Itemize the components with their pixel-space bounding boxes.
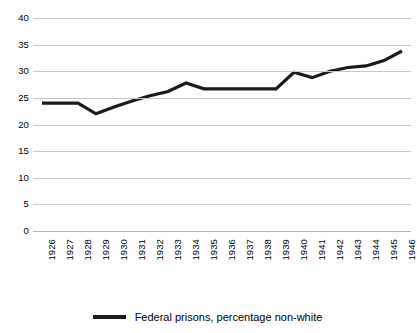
gridline bbox=[33, 151, 411, 152]
x-axis: 1926192719281929193019311932193319341935… bbox=[33, 231, 411, 293]
x-tick-label: 1930 bbox=[119, 239, 129, 283]
gridline bbox=[33, 178, 411, 179]
x-tick-label: 1927 bbox=[65, 239, 75, 283]
legend-label: Federal prisons, percentage non-white bbox=[135, 311, 323, 324]
plot-area bbox=[33, 18, 411, 231]
gridline bbox=[33, 18, 411, 19]
x-tick-label: 1944 bbox=[371, 239, 381, 283]
y-tick-label: 30 bbox=[0, 66, 29, 76]
y-tick-label: 25 bbox=[0, 93, 29, 103]
y-axis: 0510152025303540 bbox=[0, 18, 29, 231]
x-tick-label: 1929 bbox=[101, 239, 111, 283]
gridline bbox=[33, 98, 411, 99]
chart-legend: Federal prisons, percentage non-white bbox=[0, 306, 415, 328]
x-tick-label: 1926 bbox=[47, 239, 57, 283]
x-tick-label: 1932 bbox=[155, 239, 165, 283]
y-tick-label: 40 bbox=[0, 13, 29, 23]
gridline bbox=[33, 45, 411, 46]
x-tick-label: 1931 bbox=[137, 239, 147, 283]
x-tick-label: 1945 bbox=[389, 239, 399, 283]
gridline bbox=[33, 204, 411, 205]
y-tick-label: 10 bbox=[0, 173, 29, 183]
x-tick-label: 1935 bbox=[209, 239, 219, 283]
gridline bbox=[33, 125, 411, 126]
x-tick-label: 1928 bbox=[83, 239, 93, 283]
legend-swatch-icon bbox=[93, 315, 126, 319]
y-tick-label: 35 bbox=[0, 40, 29, 50]
x-tick-label: 1946 bbox=[407, 239, 417, 283]
y-tick-label: 20 bbox=[0, 120, 29, 130]
y-tick-label: 15 bbox=[0, 146, 29, 156]
x-tick-label: 1938 bbox=[263, 239, 273, 283]
x-tick-label: 1940 bbox=[299, 239, 309, 283]
x-tick-label: 1942 bbox=[335, 239, 345, 283]
x-tick-label: 1933 bbox=[173, 239, 183, 283]
x-tick-label: 1939 bbox=[281, 239, 291, 283]
gridline bbox=[33, 71, 411, 72]
x-tick-label: 1934 bbox=[191, 239, 201, 283]
x-tick-label: 1943 bbox=[353, 239, 363, 283]
x-tick-label: 1937 bbox=[245, 239, 255, 283]
y-tick-label: 0 bbox=[0, 226, 29, 236]
y-tick-label: 5 bbox=[0, 199, 29, 209]
x-tick-label: 1936 bbox=[227, 239, 237, 283]
x-tick-label: 1941 bbox=[317, 239, 327, 283]
